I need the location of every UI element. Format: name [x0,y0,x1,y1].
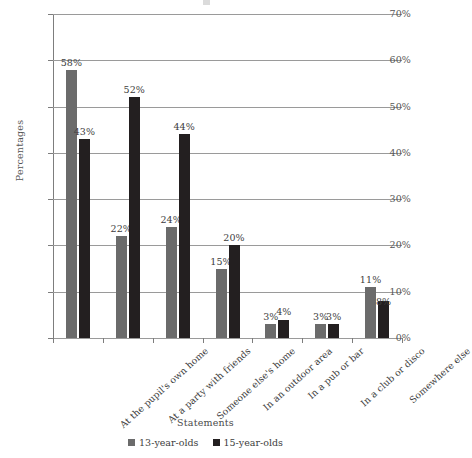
y-axis-tick-mark [48,199,53,200]
x-axis-tick-mark [53,338,54,343]
bar-value-label: 4% [269,307,299,317]
x-axis-tick-mark [103,338,104,343]
x-axis-category-label: In a pub or bar [306,345,367,401]
legend-item: 13-year-olds [128,437,198,448]
y-axis-tick-mark [48,153,53,154]
legend-label: 15-year-olds [224,437,283,448]
y-axis-tick-mark [48,292,53,293]
scan-artifact [203,0,210,5]
x-axis-tick-mark [402,338,403,343]
bar-value-label: 44% [169,122,199,132]
bar [166,227,177,338]
y-axis-tick-label: 30% [367,194,411,204]
gridline [53,245,402,246]
bar-value-label: 52% [119,85,149,95]
bar [79,139,90,338]
gridline [53,292,402,293]
y-axis-tick-label: 20% [367,240,411,250]
gridline [53,14,402,15]
x-axis-title: Statements [0,417,411,428]
bar [328,324,339,338]
x-axis-tick-mark [153,338,154,343]
chart-legend: 13-year-olds15-year-olds [0,437,411,448]
bar-value-label: 20% [219,233,249,243]
gridline [53,107,402,108]
gridline [53,153,402,154]
bar [129,97,140,338]
bar-value-label: 8% [369,297,399,307]
x-axis-tick-mark [352,338,353,343]
legend-swatch-icon [128,439,135,446]
bar [278,320,289,339]
y-axis-tick-label: 50% [367,102,411,112]
y-axis-tick-mark [48,245,53,246]
bar [216,269,227,338]
legend-label: 13-year-olds [139,437,198,448]
y-axis-tick-label: 70% [367,9,411,19]
legend-swatch-icon [213,439,220,446]
bar-value-label: 11% [356,275,386,285]
y-axis-tick-mark [48,107,53,108]
bar [315,324,326,338]
x-axis-tick-mark [252,338,253,343]
x-axis-category-label: At a party with friends [165,345,252,425]
bar [179,134,190,338]
x-axis-tick-mark [302,338,303,343]
y-axis-tick-mark [48,60,53,61]
bar [66,70,77,338]
bar-value-label: 3% [319,312,349,322]
bar [116,236,127,338]
y-axis-tick-label: 60% [367,55,411,65]
legend-item: 15-year-olds [213,437,283,448]
bar [229,245,240,338]
bar-value-label: 43% [69,127,99,137]
bar-value-label: 58% [56,58,86,68]
y-axis-tick-mark [48,14,53,15]
bar [265,324,276,338]
gridline [53,199,402,200]
gridline [53,338,402,339]
plot-area: 58%43%22%52%24%44%15%20%3%4%3%3%11%8% [53,14,402,338]
x-axis-tick-mark [203,338,204,343]
y-axis-tick-label: 40% [367,148,411,158]
y-axis-tick-label: 10% [367,287,411,297]
y-axis-title: Percentages [14,96,25,206]
y-axis-tick-label: 0% [367,333,411,343]
gridline [53,60,402,61]
